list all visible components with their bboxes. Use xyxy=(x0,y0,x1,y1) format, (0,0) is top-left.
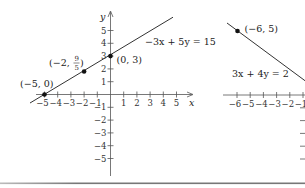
label-suffix: ) xyxy=(80,57,84,68)
tick-label: −3 xyxy=(94,128,107,138)
figure: −5 −4 −3 −2 −1 1 2 3 4 5 x y 5 4 3 2 1 −… xyxy=(0,0,305,188)
point-0-3 xyxy=(108,54,113,59)
right-x-tick-labels: −6 −5 −4 −3 −2 −1 xyxy=(229,99,305,109)
tick-label: −6 xyxy=(229,99,242,109)
tick-label: 1 xyxy=(121,98,126,108)
tick-label: −2 xyxy=(94,115,107,125)
tick-label: −3 xyxy=(63,98,76,108)
right-y-ticks xyxy=(300,108,305,159)
label-prefix: (−2, xyxy=(49,57,70,68)
bottom-rule xyxy=(0,183,305,185)
fraction-denominator: 5 xyxy=(75,64,79,72)
tick-label: −5 xyxy=(242,99,255,109)
tick-label: 4 xyxy=(161,98,166,108)
fraction-numerator: 9 xyxy=(75,55,79,63)
tick-label: −3 xyxy=(268,99,281,109)
left-equation-label: −3x + 5y = 15 xyxy=(145,36,216,47)
tick-label: 5 xyxy=(174,98,179,108)
tick-label: 1 xyxy=(101,77,106,87)
tick-label: −1 xyxy=(295,99,305,109)
point-neg2-9over5 xyxy=(82,69,87,74)
left-x-axis-label: x xyxy=(189,97,195,108)
tick-label: −4 xyxy=(94,141,107,151)
point-label-0-3: (0, 3) xyxy=(117,54,143,65)
left-y-axis-label: y xyxy=(99,11,106,22)
tick-label: 3 xyxy=(147,98,152,108)
tick-label: 2 xyxy=(101,64,106,74)
point-neg5-0 xyxy=(42,92,47,97)
point-neg6-5 xyxy=(235,29,240,34)
left-x-tick-labels: −5 −4 −3 −2 −1 1 2 3 4 5 xyxy=(36,98,179,108)
right-chart: −6 −5 −4 −3 −2 −1 (−6, 5) 3x + 4y = 2 xyxy=(223,23,305,159)
tick-label: −4 xyxy=(255,99,268,109)
point-label-neg2-9over5: (−2, 9 5 ) xyxy=(49,55,84,72)
tick-label: −1 xyxy=(94,102,107,112)
point-label-neg6-5: (−6, 5) xyxy=(245,23,279,34)
tick-label: 2 xyxy=(134,98,139,108)
tick-label: −5 xyxy=(36,98,49,108)
point-label-neg5-0: (−5, 0) xyxy=(20,78,54,89)
left-chart: −5 −4 −3 −2 −1 1 2 3 4 5 x y 5 4 3 2 1 −… xyxy=(20,11,216,176)
right-equation-label: 3x + 4y = 2 xyxy=(232,68,289,79)
tick-label: 4 xyxy=(101,38,106,48)
tick-label: −4 xyxy=(49,98,62,108)
tick-label: −2 xyxy=(282,99,295,109)
tick-label: 5 xyxy=(101,26,106,36)
tick-label: −2 xyxy=(76,98,89,108)
tick-label: −5 xyxy=(94,154,107,164)
